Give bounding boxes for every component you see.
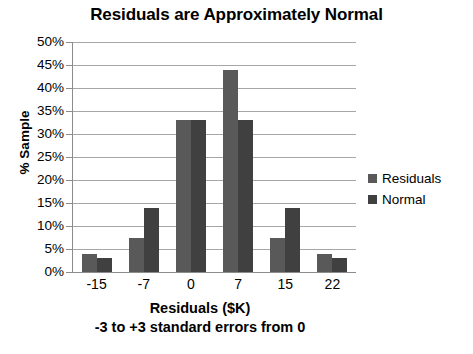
- legend-item: Residuals: [368, 168, 441, 189]
- x-axis-tick-label: 22: [309, 277, 356, 291]
- y-axis-tick-label: 40%: [4, 81, 64, 95]
- bar-group: [317, 42, 347, 272]
- legend-label: Residuals: [382, 171, 441, 186]
- bar-group: [129, 42, 159, 272]
- y-axis-tick-label: 30%: [4, 127, 64, 141]
- gridline: [73, 111, 356, 112]
- y-axis-tick-mark: [66, 65, 73, 66]
- y-axis-tick-mark: [66, 134, 73, 135]
- bar: [270, 238, 285, 273]
- bar: [223, 70, 238, 272]
- legend-swatch-icon: [368, 195, 377, 204]
- y-axis-tick-label: 10%: [4, 219, 64, 233]
- y-axis-tick-mark: [66, 180, 73, 181]
- bar: [238, 120, 253, 272]
- x-axis-subtitle: -3 to +3 standard errors from 0: [40, 319, 360, 335]
- y-axis-tick-mark: [66, 42, 73, 43]
- y-axis-tick-mark: [66, 157, 73, 158]
- chart-legend: ResidualsNormal: [368, 168, 441, 210]
- y-axis-tick-mark: [66, 111, 73, 112]
- y-axis-tick-mark: [66, 272, 73, 273]
- x-axis-tick-label: 15: [262, 277, 309, 291]
- bar: [176, 120, 191, 272]
- y-axis-tick-label: 15%: [4, 196, 64, 210]
- gridline: [73, 88, 356, 89]
- x-axis-tick-label: -7: [120, 277, 167, 291]
- x-axis-tick-label: -15: [73, 277, 120, 291]
- bar: [332, 258, 347, 272]
- bar-group: [270, 42, 300, 272]
- y-axis-tick-label: 50%: [4, 35, 64, 49]
- y-axis-tick-label: 45%: [4, 58, 64, 72]
- bar-group: [223, 42, 253, 272]
- gridline: [73, 157, 356, 158]
- y-axis-tick-label: 5%: [4, 242, 64, 256]
- chart-title: Residuals are Approximately Normal: [0, 5, 473, 25]
- gridline: [73, 203, 356, 204]
- y-axis-tick-mark: [66, 249, 73, 250]
- legend-item: Normal: [368, 189, 441, 210]
- legend-label: Normal: [382, 192, 426, 207]
- plot-area: [73, 42, 356, 272]
- chart-container: Residuals are Approximately Normal % Sam…: [0, 0, 473, 354]
- bar: [144, 208, 159, 272]
- x-axis-title: Residuals ($K): [40, 300, 360, 316]
- y-axis-tick-mark: [66, 226, 73, 227]
- y-axis-tick-label: 35%: [4, 104, 64, 118]
- gridline: [73, 180, 356, 181]
- bar: [82, 254, 97, 272]
- gridline: [73, 249, 356, 250]
- gridline: [73, 134, 356, 135]
- gridline: [73, 65, 356, 66]
- bar: [97, 258, 112, 272]
- y-axis-tick-mark: [66, 203, 73, 204]
- y-axis-tick-label: 25%: [4, 150, 64, 164]
- gridline: [73, 272, 356, 273]
- bar: [191, 120, 206, 272]
- y-axis-tick-label: 0%: [4, 265, 64, 279]
- x-axis-tick-label: 0: [167, 277, 214, 291]
- gridline: [73, 42, 356, 43]
- legend-swatch-icon: [368, 174, 377, 183]
- bar-group: [82, 42, 112, 272]
- bar: [317, 254, 332, 272]
- y-axis-tick-mark: [66, 88, 73, 89]
- bar-group: [176, 42, 206, 272]
- gridline: [73, 226, 356, 227]
- x-axis-tick-label: 7: [215, 277, 262, 291]
- bar: [285, 208, 300, 272]
- y-axis-tick-label: 20%: [4, 173, 64, 187]
- bar: [129, 238, 144, 273]
